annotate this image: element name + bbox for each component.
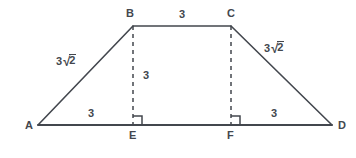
right-angle-at-E-icon [133,116,142,125]
length-label-AB: 3√2 [56,55,76,68]
length-label-FD: 3 [271,108,277,119]
length-label-BE: 3 [143,70,149,81]
length-label-BC: 3 [179,9,185,20]
vertex-label-A: A [25,120,33,131]
geometry-diagram: A B C D E F 3√2 3 3√2 3 3 3 [0,0,356,158]
right-angle-at-F-icon [231,116,240,125]
vertex-label-E: E [129,130,136,141]
vertex-label-D: D [338,120,346,131]
solid-edges [38,26,332,125]
vertex-label-C: C [227,8,235,19]
length-label-CD: 3√2 [264,42,284,55]
vertex-label-F: F [227,130,234,141]
length-label-AB-radicand: 2 [69,54,76,66]
length-label-CD-radicand: 2 [277,41,284,53]
side-AB-line [38,26,133,125]
trapezoid-figure [0,0,356,158]
right-angle-markers [133,116,240,125]
length-label-AE: 3 [88,108,94,119]
vertex-label-B: B [126,8,134,19]
